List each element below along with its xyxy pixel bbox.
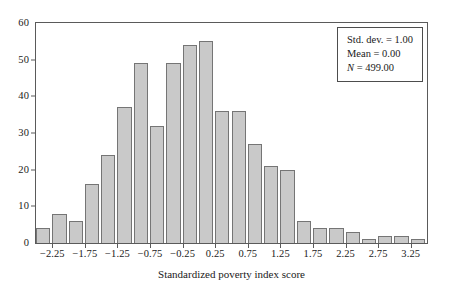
histogram-bar xyxy=(101,155,115,243)
x-tick-label: −2.25 xyxy=(40,249,65,260)
histogram-bar xyxy=(215,111,229,243)
x-tick-label: −1.75 xyxy=(72,249,97,260)
x-tick-label: 0.25 xyxy=(206,249,225,260)
histogram-bar xyxy=(297,221,311,243)
mean-text: Mean = 0.00 xyxy=(347,47,413,61)
histogram-bar xyxy=(150,126,164,243)
histogram-bar xyxy=(313,228,327,243)
histogram-figure: 0102030405060 Standardized poverty index… xyxy=(0,0,451,295)
x-tick-label: 0.75 xyxy=(238,249,257,260)
y-tick-mark xyxy=(31,96,35,97)
x-tick-label: −1.25 xyxy=(105,249,130,260)
n-symbol: N xyxy=(347,62,354,73)
histogram-bar xyxy=(362,239,376,243)
x-tick-label: 1.75 xyxy=(304,249,323,260)
histogram-bar xyxy=(117,107,131,243)
x-tick-label: 3.25 xyxy=(401,249,420,260)
y-axis: 0102030405060 xyxy=(0,0,35,295)
sample-size-text: N = 499.00 xyxy=(347,61,413,75)
histogram-bar xyxy=(264,166,278,243)
y-tick-mark xyxy=(31,206,35,207)
statistics-legend-box: Std. dev. = 1.00 Mean = 0.00 N = 499.00 xyxy=(337,27,423,82)
x-tick-label: −0.25 xyxy=(170,249,195,260)
x-tick-label: 1.25 xyxy=(271,249,290,260)
x-tick-label: −0.75 xyxy=(138,249,163,260)
histogram-bar xyxy=(36,228,50,243)
x-tick-label: 2.25 xyxy=(336,249,355,260)
histogram-bar xyxy=(85,184,99,243)
y-tick-mark xyxy=(31,59,35,60)
histogram-bar xyxy=(329,228,343,243)
y-tick-label: 30 xyxy=(18,128,29,139)
histogram-bar xyxy=(394,236,408,243)
histogram-bar xyxy=(248,144,262,243)
y-tick-label: 20 xyxy=(18,164,29,175)
n-value: = 499.00 xyxy=(354,62,394,73)
x-axis-title: Standardized poverty index score xyxy=(35,269,428,280)
histogram-bar xyxy=(199,41,213,243)
y-tick-label: 10 xyxy=(18,201,29,212)
histogram-bar xyxy=(166,63,180,243)
y-tick-label: 50 xyxy=(18,54,29,65)
y-tick-label: 60 xyxy=(18,18,29,29)
histogram-bar xyxy=(183,45,197,243)
std-dev-text: Std. dev. = 1.00 xyxy=(347,33,413,47)
histogram-bar xyxy=(378,236,392,243)
y-tick-label: 40 xyxy=(18,91,29,102)
histogram-bar xyxy=(52,214,66,243)
y-tick-mark xyxy=(31,133,35,134)
histogram-bar xyxy=(280,170,294,243)
histogram-bar xyxy=(411,239,425,243)
histogram-bar xyxy=(346,232,360,243)
x-tick-label: 2.75 xyxy=(369,249,388,260)
histogram-bar xyxy=(134,63,148,243)
y-tick-mark xyxy=(31,169,35,170)
y-tick-label: 0 xyxy=(24,238,29,249)
histogram-bar xyxy=(232,111,246,243)
histogram-bar xyxy=(69,221,83,243)
